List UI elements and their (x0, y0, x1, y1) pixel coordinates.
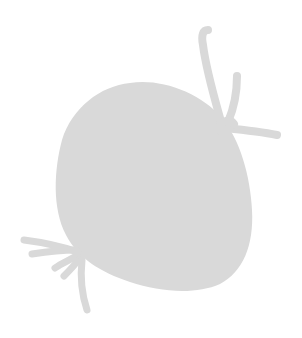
silhouette-figure (0, 0, 302, 338)
bottom-tendrils (24, 240, 87, 310)
silhouette (24, 30, 277, 310)
